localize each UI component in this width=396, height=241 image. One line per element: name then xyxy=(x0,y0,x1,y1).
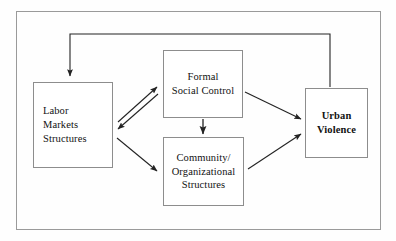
node-urban-violence: Urban Violence xyxy=(305,88,368,158)
edge-formal-to-labor xyxy=(118,94,158,129)
node-labor-markets-structures: Labor Markets Structures xyxy=(33,82,113,168)
node-urban-violence-label: Urban Violence xyxy=(306,109,367,137)
edge-formal-to-urban xyxy=(245,92,301,119)
node-formal-social-control: Formal Social Control xyxy=(163,50,243,118)
diagram-root: Labor Markets Structures Formal Social C… xyxy=(0,0,396,241)
node-formal-social-control-label: Formal Social Control xyxy=(164,70,242,98)
edge-labor-to-community xyxy=(117,138,157,171)
node-labor-markets-structures-label: Labor Markets Structures xyxy=(34,104,112,146)
node-community-organizational-structures: Community/ Organizational Structures xyxy=(163,137,244,206)
node-community-organizational-structures-label: Community/ Organizational Structures xyxy=(164,151,243,193)
edge-community-to-urban xyxy=(248,134,301,169)
edge-labor-to-formal xyxy=(118,87,157,122)
